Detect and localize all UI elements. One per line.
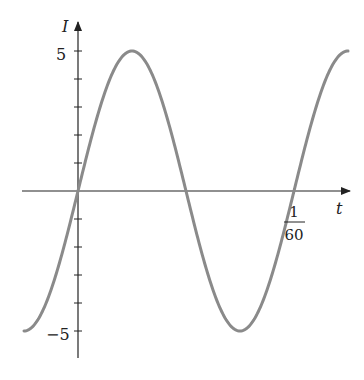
y-tick-label-5: 5 bbox=[56, 45, 66, 64]
x-tick-label-numerator: 1 bbox=[289, 203, 299, 221]
y-tick-label-neg5: −5 bbox=[46, 325, 70, 344]
x-tick-label-denominator: 60 bbox=[284, 226, 303, 244]
y-axis-label: I bbox=[61, 17, 69, 36]
sine-chart: I t 5 −5 1 60 bbox=[0, 0, 364, 380]
x-axis-label: t bbox=[336, 199, 343, 218]
